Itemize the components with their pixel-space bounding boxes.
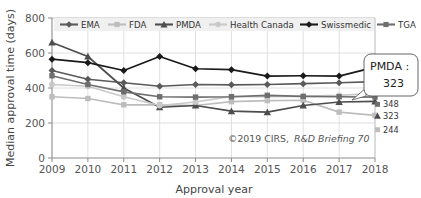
marker-square [336, 94, 341, 99]
marker-circle [157, 103, 163, 109]
legend-label: FDA [129, 20, 146, 30]
callout-value: 323 [383, 77, 404, 90]
marker-square [336, 109, 341, 114]
end-label-pmda: 323 [383, 111, 399, 121]
x-tick-label: 2015 [254, 163, 281, 175]
x-tick-label: 2013 [182, 163, 209, 175]
x-tick-label: 2017 [326, 163, 353, 175]
y-tick-label: 200 [25, 117, 45, 129]
y-tick-label: 800 [25, 12, 45, 24]
end-label-tga: 348 [383, 99, 399, 109]
marker-circle [121, 94, 127, 100]
marker-square [229, 94, 234, 99]
y-tick-label: 400 [25, 82, 45, 94]
x-tick-label: 2018 [362, 163, 389, 175]
x-axis-title: Approval year [176, 183, 253, 196]
marker-square [49, 94, 54, 99]
marker-square [121, 89, 126, 94]
chart-legend: EMAFDAPMDAHealth CanadaSwissmedicTGA [54, 18, 416, 31]
y-tick-label: 0 [38, 152, 45, 164]
y-tick-label: 600 [25, 47, 45, 59]
legend-label: EMA [81, 20, 100, 30]
line-chart: 0200400600800 20092010201120122013201420… [0, 0, 421, 198]
marker-square-endmark [375, 102, 380, 107]
marker-circle-legend [215, 22, 221, 28]
marker-square [121, 102, 126, 107]
legend-label: Swissmedic [321, 20, 371, 30]
y-axis-ticks: 0200400600800 [25, 12, 52, 164]
callout-label: PMDA : [370, 60, 409, 73]
marker-square [49, 73, 54, 78]
x-tick-label: 2011 [110, 163, 137, 175]
marker-square-endmark [375, 127, 380, 132]
x-axis-ticks: 2009201020112012201320142015201620172018 [39, 158, 389, 175]
marker-square [301, 94, 306, 99]
legend-label: PMDA [176, 20, 201, 30]
marker-square [85, 82, 90, 87]
y-axis-title: Median approval time (days) [4, 9, 17, 167]
marker-square [85, 96, 90, 101]
marker-square [229, 99, 234, 104]
marker-square-legend [114, 22, 119, 27]
x-tick-label: 2010 [75, 163, 102, 175]
x-tick-label: 2012 [146, 163, 173, 175]
marker-square [265, 93, 270, 98]
legend-label: TGA [397, 20, 416, 30]
marker-circle [193, 99, 199, 105]
marker-circle [49, 82, 55, 88]
marker-square [157, 94, 162, 99]
x-tick-label: 2016 [290, 163, 317, 175]
credit-reference: R&D Briefing 70 [294, 133, 370, 144]
end-label-fda: 244 [383, 125, 399, 135]
credit-prefix: ©2019 CIRS, [228, 133, 289, 144]
marker-square [193, 94, 198, 99]
credit-note: ©2019 CIRS, R&D Briefing 70 [228, 133, 370, 144]
x-tick-label: 2014 [218, 163, 245, 175]
legend-item-tga[interactable]: TGA [377, 20, 416, 30]
chart-container: 0200400600800 20092010201120122013201420… [0, 0, 421, 198]
legend-label: Health Canada [230, 20, 294, 30]
x-tick-label: 2009 [39, 163, 66, 175]
marker-square-legend [383, 22, 388, 27]
